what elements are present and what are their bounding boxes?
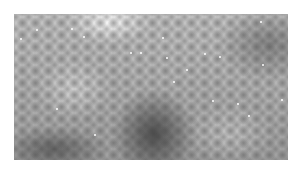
speckle [219,56,221,58]
speckle [173,81,175,83]
speckle [83,36,85,38]
speckles [14,14,288,160]
speckle [204,53,206,55]
speckle [186,69,188,71]
speckle [71,28,73,30]
speckle [20,38,22,40]
speckle [237,103,239,105]
speckle [262,64,264,66]
speckle [56,108,58,110]
micrograph-image [14,14,288,160]
speckle [260,21,262,23]
speckle [166,57,168,59]
speckle [162,37,164,39]
speckle [281,99,283,101]
speckle [94,134,96,136]
speckle [130,52,132,54]
speckle [140,52,142,54]
speckle [248,115,250,117]
speckle [36,29,38,31]
speckle [212,100,214,102]
